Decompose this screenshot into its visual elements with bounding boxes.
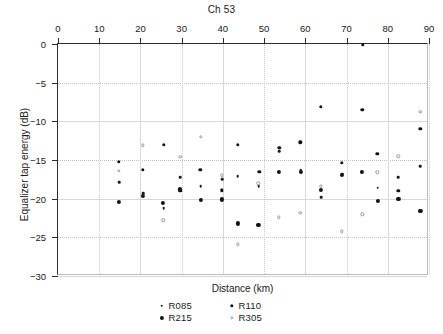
chart-title: Ch 53: [0, 4, 443, 15]
data-point-r110: [236, 143, 239, 146]
x-tick-mark: [388, 38, 389, 44]
legend-marker-icon: [229, 315, 235, 321]
x-tick-mark: [182, 38, 183, 44]
x-tick-mark: [347, 38, 348, 44]
data-point-r110: [419, 127, 422, 130]
data-point-r305: [319, 185, 322, 188]
data-point-r305: [141, 144, 144, 147]
gridline-horizontal: [58, 83, 427, 84]
legend-entry-r215[interactable]: R215: [159, 312, 215, 323]
data-point-r305: [397, 154, 400, 157]
data-point-r215: [161, 200, 165, 204]
data-point-r215: [117, 200, 121, 204]
y-tick-label: −10: [30, 116, 46, 127]
chart-legend: R085R110R215R305: [0, 300, 443, 323]
data-point-r305: [199, 135, 202, 138]
gridline-vertical: [347, 44, 348, 274]
data-point-r085: [199, 185, 202, 188]
legend-marker-icon: [229, 303, 235, 309]
data-point-r110: [117, 160, 120, 163]
data-point-r305: [277, 216, 280, 219]
y-tick-label: −25: [30, 232, 46, 243]
data-point-r110: [376, 152, 379, 155]
x-tick-mark: [140, 38, 141, 44]
data-point-r085: [118, 181, 121, 184]
data-point-r305: [236, 243, 239, 246]
y-tick-label: −5: [35, 77, 46, 88]
data-point-r305: [340, 229, 343, 232]
data-point-r305: [419, 110, 422, 113]
scatter-plot-figure: Ch 53 0102030405060708090 0−5−10−15−20−2…: [0, 0, 443, 334]
data-point-r215: [319, 188, 323, 192]
x-tick-label: 50: [259, 23, 270, 34]
y-tick-mark: [52, 44, 58, 45]
y-tick-mark: [52, 199, 58, 200]
data-point-r215: [418, 209, 422, 213]
x-tick-label: 30: [176, 23, 187, 34]
y-tick-mark: [52, 276, 58, 277]
data-point-r085: [320, 196, 323, 199]
data-point-r215: [360, 170, 364, 174]
x-tick-label: 80: [382, 23, 393, 34]
data-point-r110: [397, 189, 400, 192]
data-point-r110: [299, 141, 302, 144]
data-point-r215: [340, 173, 344, 177]
legend-entry-r110[interactable]: R110: [229, 300, 285, 311]
legend-marker-icon: [159, 303, 165, 309]
gridline-vertical: [223, 44, 224, 274]
data-point-r110: [340, 161, 343, 164]
gridline-horizontal: [58, 199, 427, 200]
y-tick-mark: [52, 237, 58, 238]
data-point-r305: [361, 212, 364, 215]
plot-area: 0102030405060708090 0−5−10−15−20−25−30: [57, 43, 428, 275]
data-point-r085: [419, 165, 422, 168]
x-tick-mark: [58, 38, 59, 44]
gridline-vertical: [264, 44, 265, 274]
x-axis-label: Distance (km): [57, 283, 428, 294]
x-tick-label: 70: [341, 23, 352, 34]
x-tick-mark: [429, 38, 430, 44]
gridline-vertical: [140, 44, 141, 274]
legend-row: R085R110: [159, 300, 285, 311]
data-point-r085: [377, 187, 380, 190]
y-tick-label: −30: [30, 271, 46, 282]
legend-label: R110: [239, 300, 262, 311]
x-tick-label: 20: [135, 23, 146, 34]
legend-label: R085: [169, 300, 193, 311]
legend-label: R305: [239, 312, 263, 323]
data-point-r215: [277, 170, 281, 174]
legend-row: R215R305: [159, 312, 285, 323]
x-tick-label: 60: [300, 23, 311, 34]
legend-entry-r305[interactable]: R305: [229, 312, 285, 323]
y-tick-label: −15: [30, 155, 46, 166]
data-point-r085: [179, 176, 182, 179]
data-point-r110: [361, 43, 364, 46]
gridline-horizontal: [58, 121, 427, 122]
x-tick-label: 40: [218, 23, 229, 34]
data-point-r085: [278, 150, 281, 153]
y-tick-mark: [52, 160, 58, 161]
legend-marker-icon: [159, 315, 165, 321]
x-tick-label: 90: [424, 23, 435, 34]
data-point-r085: [221, 178, 224, 181]
data-point-r110: [199, 168, 202, 171]
data-point-r305: [299, 211, 302, 214]
gridline-vertical: [182, 44, 183, 274]
data-point-r085: [236, 175, 239, 178]
data-point-r215: [141, 193, 145, 197]
data-point-r110: [257, 170, 260, 173]
data-point-r215: [236, 221, 240, 225]
gridline-vertical: [99, 44, 100, 274]
data-point-r215: [376, 199, 380, 203]
data-point-r305: [161, 219, 164, 222]
legend-entry-r085[interactable]: R085: [159, 300, 215, 311]
gridline-horizontal: [58, 237, 427, 238]
x-tick-mark: [99, 38, 100, 44]
data-point-r305: [376, 171, 379, 174]
data-point-r110: [278, 146, 281, 149]
y-tick-mark: [52, 121, 58, 122]
legend-label: R215: [169, 312, 193, 323]
x-tick-mark: [305, 38, 306, 44]
gridline-horizontal: [58, 160, 427, 161]
gridline-horizontal: [58, 276, 427, 277]
